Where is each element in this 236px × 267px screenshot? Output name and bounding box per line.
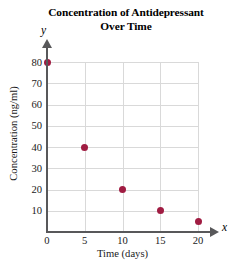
chart-figure: Concentration of Antidepressant Over Tim… (0, 0, 236, 267)
y-axis-line (46, 47, 48, 233)
data-point (157, 207, 164, 214)
y-tick-label: 70 (18, 78, 42, 89)
x-tick-label: 15 (147, 235, 173, 246)
x-tick-label: 5 (72, 235, 98, 246)
y-axis-title: Concentration (ng/ml) (8, 69, 19, 199)
y-tick-label: 20 (18, 184, 42, 195)
x-axis-title: Time (days) (47, 248, 198, 259)
y-tick-label: 10 (18, 205, 42, 216)
y-axis-arrow-icon (42, 39, 52, 48)
y-axis-tick-labels: 80 70 60 50 40 30 20 10 (16, 0, 42, 267)
gridline-x-10 (123, 62, 124, 232)
y-tick-label: 30 (18, 163, 42, 174)
x-axis-line (46, 231, 213, 233)
x-tick-label: 20 (185, 235, 211, 246)
gridline-x-20 (198, 62, 199, 232)
y-tick-label: 80 (18, 57, 42, 68)
chart-title-line-1: Concentration of Antidepressant (48, 6, 204, 18)
x-axis-variable-label: x (222, 221, 227, 233)
y-tick-label: 40 (18, 142, 42, 153)
x-tick-label: 0 (34, 235, 60, 246)
data-point (195, 218, 202, 225)
y-tick-label: 50 (18, 120, 42, 131)
x-tick-label: 10 (110, 235, 136, 246)
data-point (81, 144, 88, 151)
plot-area (47, 62, 198, 232)
chart-title-line-2: Over Time (26, 20, 226, 34)
chart-title: Concentration of Antidepressant Over Tim… (26, 6, 226, 33)
data-point (119, 186, 126, 193)
y-tick-label: 60 (18, 99, 42, 110)
